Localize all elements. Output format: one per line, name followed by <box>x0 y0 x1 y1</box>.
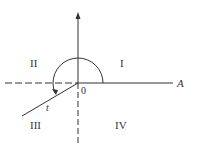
quadrant-label-1: I <box>120 57 124 69</box>
origin-label: 0 <box>81 85 86 96</box>
arrow-up-icon <box>76 12 81 19</box>
axis-label-a: A <box>176 77 184 89</box>
quadrant-label-3: III <box>30 119 41 131</box>
arc-arrowhead-icon <box>52 89 58 95</box>
quadrant-label-4: IV <box>115 119 127 131</box>
terminal-ray-t <box>22 83 78 116</box>
quadrant-diagram: II I III IV 0 A t <box>0 0 198 149</box>
ray-label-t: t <box>46 102 49 113</box>
quadrant-label-2: II <box>30 57 38 69</box>
